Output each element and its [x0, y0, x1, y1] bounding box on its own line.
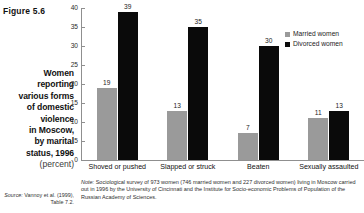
plot-area: 0510152025303540 193913357301113 — [81, 8, 281, 161]
bar-divorced: 35 — [188, 27, 208, 160]
figure-caption: Women reporting various forms of domesti… — [0, 68, 74, 171]
y-axis-tick-label: 30 — [71, 43, 78, 50]
x-axis-category-label: Slapped or struck — [160, 164, 215, 171]
caption-line: of domestic — [0, 102, 74, 113]
y-axis-tick-label: 5 — [74, 138, 78, 145]
caption-line: Women — [0, 68, 74, 79]
figure-note: Note: Sociological survey of 973 women (… — [81, 179, 363, 201]
bar-value-label: 30 — [265, 38, 272, 45]
source-citation: Source: Vannoy et al. (1999), Table 7.2. — [0, 192, 74, 206]
source-text: Vannoy et al. (1999), Table 7.2. — [24, 192, 74, 205]
source-label: Source: — [4, 192, 23, 198]
figure-number: Figure 5.6 — [3, 6, 45, 16]
bar-married: 13 — [167, 111, 187, 160]
chart-legend: Married women Divorced women — [285, 30, 364, 50]
bar-value-label: 35 — [195, 19, 202, 26]
note-label: Note: — [81, 179, 94, 185]
x-axis-category-label: Shoved or pushed — [88, 164, 146, 171]
bar-value-label: 7 — [246, 125, 250, 132]
legend-swatch-icon — [285, 42, 290, 47]
y-axis-tick-label: 15 — [71, 100, 78, 107]
y-axis-tick-label: 20 — [71, 81, 78, 88]
legend-item-married: Married women — [285, 30, 364, 39]
caption-line: status, 1996 — [0, 148, 74, 159]
bar-value-label: 39 — [124, 4, 131, 11]
bar-value-label: 13 — [174, 103, 181, 110]
y-axis-tick-label: 25 — [71, 62, 78, 69]
bar-married: 19 — [97, 88, 117, 160]
legend-label: Divorced women — [293, 41, 343, 48]
bar-divorced: 30 — [259, 46, 279, 160]
bar-married: 7 — [238, 133, 258, 160]
bar-value-label: 19 — [103, 80, 110, 87]
caption-line: reporting — [0, 79, 74, 90]
caption-unit: (percent) — [0, 159, 74, 170]
caption-line: various forms — [0, 91, 74, 102]
x-axis-category-labels: Shoved or pushedSlapped or struckBeatenS… — [82, 164, 364, 176]
bar-value-label: 11 — [315, 110, 322, 117]
bar-divorced: 13 — [329, 111, 349, 160]
legend-item-divorced: Divorced women — [285, 40, 364, 49]
x-axis-category-label: Sexually assaulted — [299, 164, 358, 171]
y-axis-tick-label: 0 — [74, 157, 78, 164]
figure-container: Figure 5.6 Women reporting various forms… — [0, 0, 364, 213]
caption-line: by marital — [0, 136, 74, 147]
bar-value-label: 13 — [336, 103, 343, 110]
x-axis-category-label: Beaten — [247, 164, 269, 171]
caption-line: in Moscow, — [0, 125, 74, 136]
y-axis-tick-label: 35 — [71, 24, 78, 31]
legend-swatch-icon — [285, 32, 290, 37]
bar-married: 11 — [308, 118, 328, 160]
y-axis-tick-label: 40 — [71, 5, 78, 12]
legend-label: Married women — [293, 31, 339, 38]
note-text: Sociological survey of 973 women (746 ma… — [81, 179, 356, 200]
bar-divorced: 39 — [118, 12, 138, 160]
caption-line: violence — [0, 114, 74, 125]
y-axis-tick-label: 10 — [71, 119, 78, 126]
